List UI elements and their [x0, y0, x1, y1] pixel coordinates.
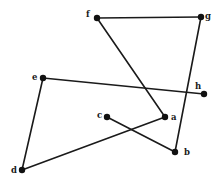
- node-label-h: h: [195, 81, 201, 91]
- node-label-a: a: [171, 112, 177, 122]
- node-label-g: g: [205, 11, 211, 21]
- node-a: [162, 114, 168, 120]
- nodes-group: [19, 14, 207, 173]
- edge-d-a: [22, 117, 165, 170]
- node-label-f: f: [86, 9, 91, 19]
- node-e: [40, 75, 46, 81]
- node-c: [104, 114, 110, 120]
- edge-f-g: [97, 17, 201, 18]
- edge-e-h: [43, 78, 204, 94]
- node-b: [172, 149, 178, 155]
- node-label-e: e: [32, 72, 38, 82]
- node-d: [19, 167, 25, 173]
- edge-f-a: [97, 18, 165, 117]
- node-label-d: d: [11, 165, 17, 175]
- edge-e-d: [22, 78, 43, 170]
- edges-group: [22, 17, 204, 170]
- node-g: [198, 14, 204, 20]
- node-label-c: c: [97, 110, 102, 120]
- node-f: [94, 15, 100, 21]
- node-label-b: b: [184, 147, 190, 157]
- graph-diagram: abcdefgh: [0, 0, 221, 180]
- node-h: [201, 91, 207, 97]
